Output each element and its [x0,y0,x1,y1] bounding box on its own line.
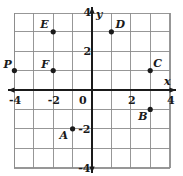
y-tick-label-neg2: -2 [78,124,90,135]
point-label-d: D [115,19,125,30]
point-label-e: E [40,19,48,30]
y-tick-label-4: 4 [84,7,92,18]
coordinate-plane-figure: PFEADCB-4-202442-2-4xy [0,0,183,176]
data-point-c [148,68,153,73]
x-tick-label-0: 0 [79,95,87,106]
data-point-d [109,29,114,34]
data-point-p [12,68,17,73]
point-label-a: A [60,130,69,141]
x-axis-arrow-right [170,87,177,92]
point-label-b: B [138,111,147,122]
x-tick-label-2: 2 [128,95,136,106]
x-axis-arrow-left [8,87,15,92]
x-axis-label: x [164,76,171,87]
point-label-c: C [153,58,162,69]
data-point-b [148,107,153,112]
data-point-e [51,29,56,34]
y-tick-label-neg4: -4 [78,163,90,174]
point-label-p: P [3,59,11,70]
data-points-group [12,29,153,131]
point-label-f: F [41,59,49,70]
x-tick-label-neg2: -2 [48,95,60,106]
coordinate-plot-svg [0,0,183,176]
x-tick-label-neg4: -4 [9,95,21,106]
y-tick-label-2: 2 [84,46,92,57]
y-axis-label: y [96,9,102,20]
data-point-f [51,68,56,73]
x-tick-label-4: 4 [167,95,175,106]
data-point-a [70,126,75,131]
